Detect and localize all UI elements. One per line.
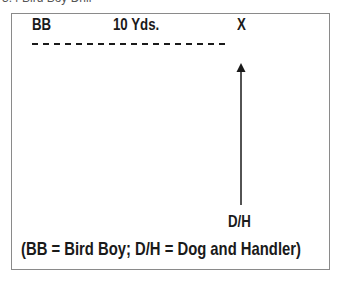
arrow-head-icon: [237, 63, 246, 72]
legend-text: (BB = Bird Boy; D/H = Dog and Handler): [21, 238, 301, 260]
dog-handler-label: D/H: [228, 212, 251, 232]
